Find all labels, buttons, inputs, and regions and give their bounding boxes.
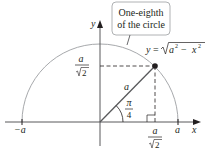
- y-tick-fraction: a 2: [75, 53, 89, 78]
- angle-fraction: π 4: [125, 97, 133, 120]
- eq-a: a: [169, 44, 174, 55]
- one-eighth-circle-diagram: One-eighth of the circle y = a 2 − x 2 y…: [0, 0, 209, 151]
- radius-label: a: [124, 81, 129, 92]
- x-frac-den: 2: [155, 140, 160, 150]
- callout-line-1: One-eighth: [119, 7, 164, 18]
- x-frac-num: a: [153, 125, 158, 136]
- eq-x: x: [191, 44, 197, 55]
- angle-num: π: [126, 97, 132, 108]
- y-frac-num: a: [79, 53, 84, 64]
- point-on-circle: [152, 63, 158, 69]
- y-frac-den: 2: [82, 68, 87, 78]
- y-axis-arrow-icon: [97, 20, 103, 28]
- eq-y: y: [145, 44, 151, 55]
- right-angle-marker: [147, 115, 155, 122]
- x-tick-fraction: a 2: [148, 125, 162, 150]
- tick-label-neg-a: −a: [14, 124, 26, 135]
- tick-label-pos-a: a: [175, 124, 180, 135]
- angle-arc: [116, 106, 123, 122]
- eq-a-exp: 2: [175, 43, 178, 49]
- angle-den: 4: [127, 110, 132, 120]
- x-axis-label: x: [191, 124, 197, 135]
- eq-minus: −: [181, 44, 187, 55]
- y-axis-label: y: [90, 18, 96, 29]
- eq-equals: =: [153, 44, 159, 55]
- callout-line-2: of the circle: [117, 19, 165, 30]
- eq-x-exp: 2: [198, 43, 201, 49]
- callout-leader: [127, 35, 130, 45]
- curve-equation-label: y = a 2 − x 2: [145, 43, 205, 56]
